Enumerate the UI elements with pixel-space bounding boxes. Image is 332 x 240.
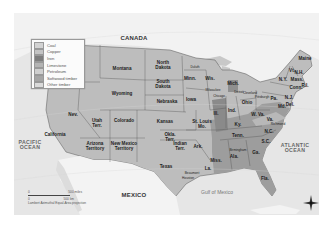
state-label: Chicago [213, 94, 225, 99]
scale-miles: 500 miles [68, 190, 82, 194]
legend-swatch [34, 75, 44, 82]
state-label: Indian Terr. [173, 141, 187, 151]
legend-item-other-timber: Other timber [34, 82, 82, 89]
state-label: N.H. [294, 70, 303, 75]
legend-swatch [34, 42, 44, 49]
state-label: Kansas [157, 119, 173, 124]
state-label: South Dakota [155, 79, 170, 89]
state-label: Del. [286, 102, 294, 107]
state-label: St. Louis Mo. [192, 119, 211, 129]
state-label: Fla. [261, 176, 269, 181]
state-label: Ill. [213, 111, 218, 116]
state-label: Cleveland [243, 91, 257, 96]
state-label: New Mexico Territory [111, 141, 137, 151]
state-label: Birmingham [229, 148, 246, 153]
legend-item-limestone: Limestone [34, 62, 82, 69]
atlantic-ocean-label: ATLANTIC OCEAN [281, 143, 310, 153]
state-label: Ind. [228, 108, 236, 113]
state-label: Nebraska [157, 99, 178, 104]
legend-item-coal: Coal [34, 42, 82, 49]
state-label: Arizona Territory [86, 141, 105, 151]
state-label: Mass. [291, 77, 304, 82]
legend-item-softwood-timber: Softwood timber [34, 75, 82, 82]
legend-item-petroleum: Petroleum [34, 68, 82, 75]
state-label: Ky. [235, 122, 242, 127]
legend-swatch [34, 55, 44, 62]
state-label: Iowa [186, 97, 196, 102]
canada-label: CANADA [120, 36, 147, 41]
state-label: Tenn. [232, 133, 244, 138]
state-label: Ohio [242, 100, 252, 105]
gulf-of-mexico-label: Gulf of Mexico [201, 190, 233, 195]
state-label: Nev. [68, 112, 77, 117]
state-label: La. [205, 166, 212, 171]
state-label: North Dakota [155, 60, 170, 70]
state-label: Pa. [271, 96, 278, 101]
state-label: Wyoming [112, 91, 133, 96]
projection-note: Lambert Azimuthal Equal-Area projection [28, 201, 86, 205]
state-label: Minn. [184, 76, 196, 81]
legend: Coal Copper Iron Limestone Petroleum Sof… [31, 39, 85, 89]
state-label: Md. [278, 104, 286, 109]
legend-swatch [34, 68, 44, 75]
state-label: Duluth [190, 65, 199, 70]
scale-zero: 0 [28, 190, 30, 194]
legend-swatch [34, 62, 44, 69]
legend-item-iron: Iron [34, 55, 82, 62]
state-label: Richmond [271, 122, 285, 127]
state-label: Utah Terr. [92, 118, 102, 128]
state-label: N.Y. [279, 77, 287, 82]
state-label: Montana [113, 66, 132, 71]
state-label: Colorado [114, 118, 134, 123]
scale-line [28, 195, 70, 196]
state-label: Mich. [227, 81, 239, 86]
scale-bar: 0500 miles 0500 km Lambert Azimuthal Equ… [28, 190, 86, 205]
state-label: W. Va. [251, 112, 264, 117]
state-label: Wis. [205, 76, 214, 81]
state-label: Ark. [194, 144, 203, 149]
pacific-ocean-label: PACIFIC OCEAN [18, 140, 41, 150]
state-label: Maine [298, 56, 311, 61]
state-label: Texas [160, 164, 173, 169]
state-label: Detroit [234, 90, 243, 95]
state-label: N.C. [264, 129, 273, 134]
state-label: California [44, 132, 65, 137]
state-label: Ga. [252, 150, 259, 155]
state-label: Conn. [289, 85, 302, 90]
state-label: Miss. [210, 158, 222, 163]
mexico-label: MEXICO [122, 193, 147, 198]
legend-swatch [34, 82, 44, 89]
state-label: N.J. [285, 95, 293, 100]
state-label: Ala. [230, 154, 238, 159]
legend-swatch [34, 49, 44, 56]
legend-item-copper: Copper [34, 49, 82, 56]
state-label: Milwaukee [205, 88, 220, 93]
state-label: S.C. [262, 139, 271, 144]
state-label: Houston [182, 176, 194, 181]
